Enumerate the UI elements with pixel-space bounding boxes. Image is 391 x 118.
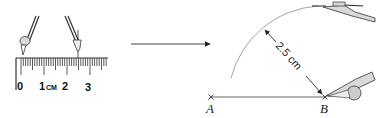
compass-top-icon (312, 2, 375, 22)
construction: A B 2.5 cm (205, 2, 375, 116)
compass-construction-diagram: 0 1 CM 2 3 A B 2.5 cm (0, 0, 391, 118)
compass-arc (231, 6, 318, 78)
compass-needle-icon (326, 72, 375, 100)
radius-label: 2.5 cm (274, 39, 305, 72)
ruler-unit: CM (46, 84, 57, 91)
ruler-label-3: 3 (85, 81, 91, 93)
ruler-icon: 0 1 CM 2 3 (16, 58, 108, 93)
ruler-label-2: 2 (62, 80, 68, 92)
compass-on-ruler: 0 1 CM 2 3 (16, 16, 108, 93)
ruler-label-1: 1 (39, 80, 45, 92)
point-a-label: A (205, 101, 214, 116)
compass-needle-leg-icon (65, 16, 81, 59)
compass-pencil-leg-icon (20, 16, 39, 55)
ruler-label-0: 0 (17, 80, 23, 92)
point-b-label: B (320, 101, 328, 116)
